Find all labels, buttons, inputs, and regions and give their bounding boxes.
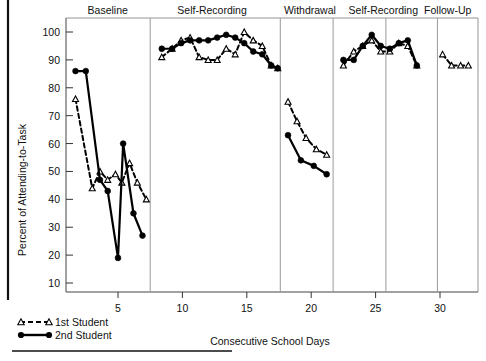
y-tick-label: 20 [48,249,60,261]
chart-figure: 102030405060708090100 51015202530 Baseli… [0,0,486,361]
y-tick-label: 70 [48,110,60,122]
data-point-filled-circle [115,255,121,261]
attending-to-task-line-chart: 102030405060708090100 51015202530 Baseli… [0,0,486,361]
data-point-filled-circle [351,57,357,63]
phase-label: Self-Recording [349,4,419,16]
x-tick-label: 5 [115,302,121,314]
phase-label: Self-Recording [177,4,247,16]
legend-marker-filled-circle [18,332,24,338]
data-point-filled-circle [324,171,330,177]
data-point-filled-circle [196,37,202,43]
data-point-filled-circle [120,141,126,147]
data-point-filled-circle [414,63,420,69]
data-point-filled-circle [83,68,89,74]
data-point-filled-circle [378,43,384,49]
data-point-filled-circle [159,46,165,52]
x-tick-label: 15 [241,302,253,314]
y-tick-label: 80 [48,82,60,94]
y-tick-label: 30 [48,221,60,233]
data-point-filled-circle [73,68,79,74]
x-axis-title: Consecutive School Days [210,335,330,347]
x-tick-label: 25 [370,302,382,314]
data-point-filled-circle [275,65,281,71]
data-point-filled-circle [131,210,137,216]
legend-label-2: 2nd Student [55,329,112,341]
data-point-filled-circle [250,49,256,55]
data-point-filled-circle [105,188,111,194]
data-point-filled-circle [341,57,347,63]
y-tick-label: 10 [48,277,60,289]
y-tick-label: 60 [48,138,60,150]
data-point-filled-circle [140,233,146,239]
y-tick-label: 90 [48,54,60,66]
data-point-filled-circle [360,43,366,49]
data-point-filled-circle [298,157,304,163]
data-point-filled-circle [259,51,265,57]
data-point-filled-circle [285,132,291,138]
data-point-filled-circle [405,37,411,43]
data-point-filled-circle [232,35,238,41]
data-point-filled-circle [311,163,317,169]
y-tick-label: 40 [48,193,60,205]
data-point-filled-circle [97,177,103,183]
phase-label: Follow-Up [424,4,471,16]
data-point-filled-circle [396,40,402,46]
data-point-filled-circle [369,32,375,38]
x-tick-label: 10 [177,302,189,314]
data-point-filled-circle [178,40,184,46]
phase-label: Withdrawal [284,4,336,16]
data-point-filled-circle [187,37,193,43]
y-tick-label: 100 [42,26,60,38]
legend-label-1: 1st Student [55,316,108,328]
data-point-filled-circle [205,37,211,43]
y-axis-title: Percent of Attending-to-Task [16,123,28,256]
data-point-filled-circle [387,46,393,52]
x-tick-label: 30 [434,302,446,314]
data-point-filled-circle [223,32,229,38]
x-tick-label: 20 [305,302,317,314]
phase-label: Baseline [88,4,128,16]
data-point-filled-circle [268,63,274,69]
y-tick-label: 50 [48,165,60,177]
data-point-filled-circle [241,40,247,46]
data-point-filled-circle [169,46,175,52]
legend-marker-filled-circle [46,332,52,338]
data-point-filled-circle [214,35,220,41]
